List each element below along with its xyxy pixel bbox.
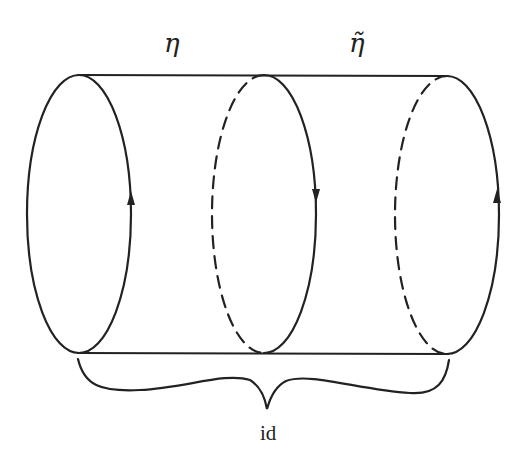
- arrow-down-icon: [312, 189, 320, 203]
- left-loop: [27, 75, 131, 353]
- arrow-up-icon: [493, 189, 501, 203]
- label-eta-tilde: η̃: [349, 28, 365, 58]
- brace: [78, 359, 449, 409]
- label-id: id: [260, 421, 277, 445]
- right-loop-front: [447, 76, 499, 354]
- label-eta: η: [164, 28, 180, 58]
- middle-loop-back: [212, 75, 264, 353]
- arrow-up-icon: [127, 191, 135, 205]
- cylinder-diagram: η η̃ id: [0, 0, 529, 460]
- right-loop-back: [395, 76, 447, 354]
- middle-loop-front: [264, 75, 316, 353]
